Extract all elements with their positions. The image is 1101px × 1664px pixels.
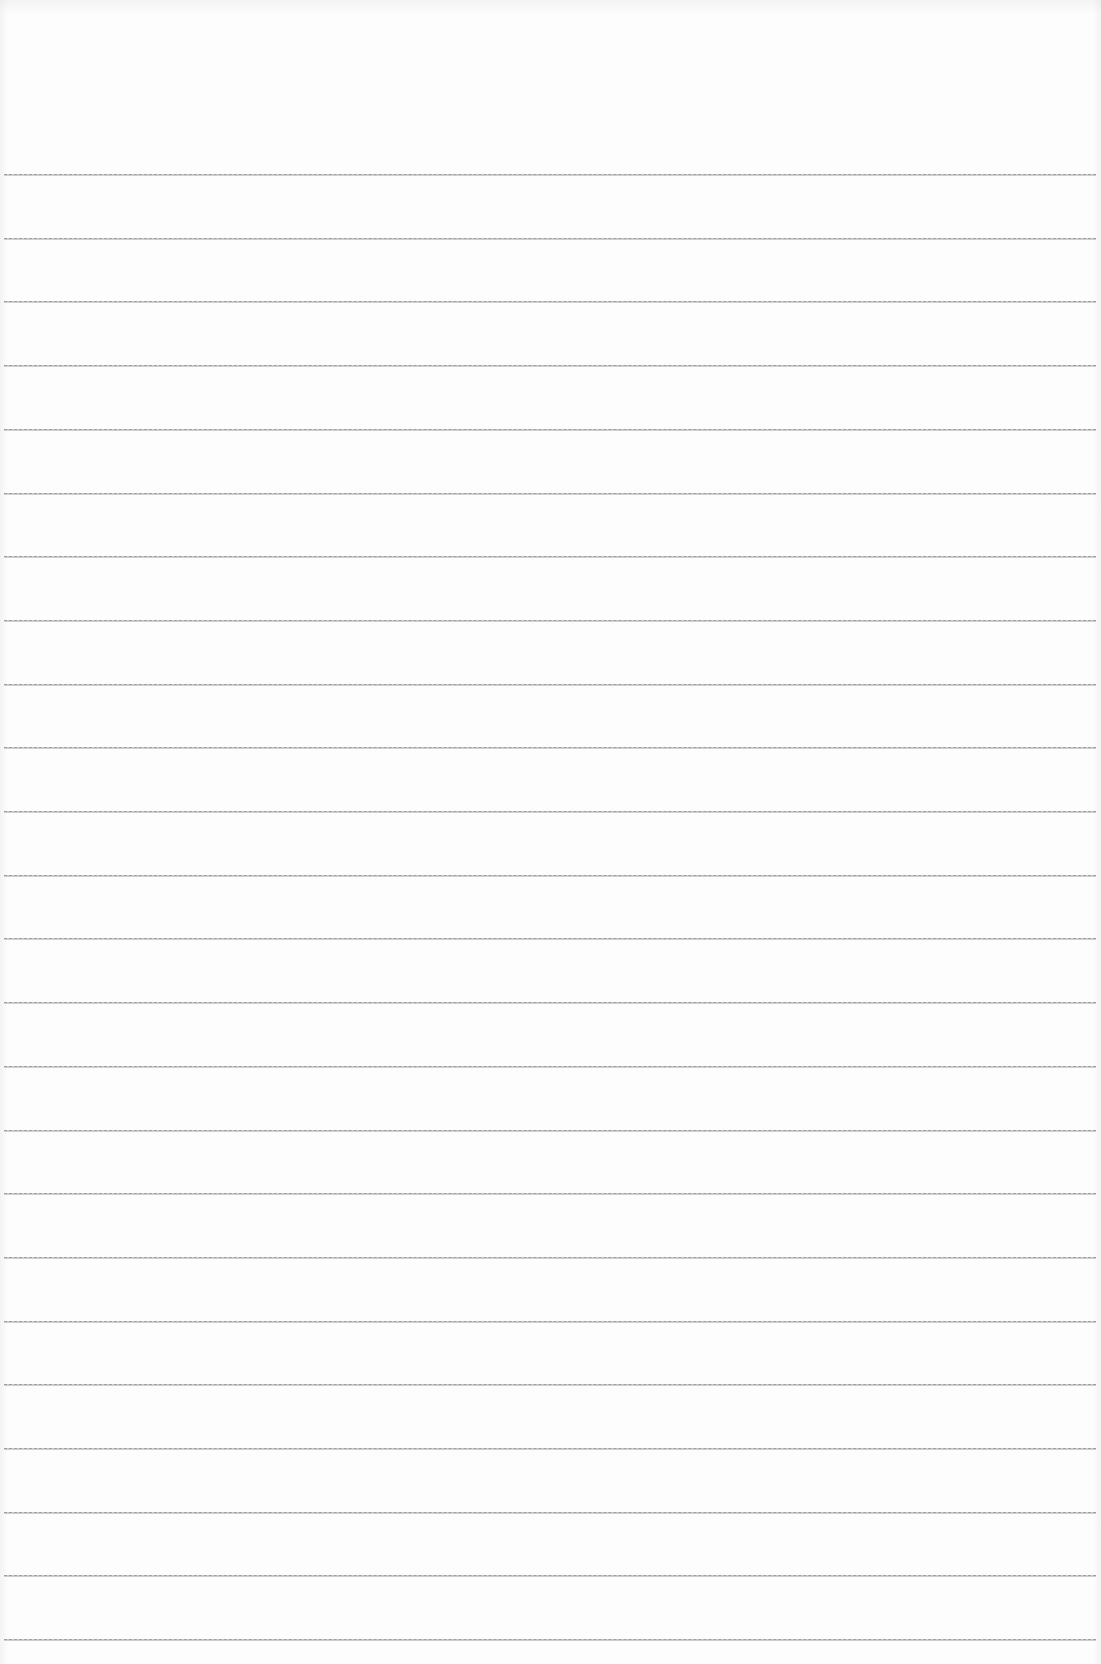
ruled-line <box>4 238 1096 240</box>
right-edge-shadow <box>1093 0 1101 1664</box>
ruled-line <box>4 620 1096 622</box>
ruled-line <box>4 1066 1096 1068</box>
ruled-line <box>4 1130 1096 1132</box>
ruled-line <box>4 1512 1096 1514</box>
ruled-line <box>4 684 1096 686</box>
ruled-line <box>4 301 1096 303</box>
ruled-line <box>4 1575 1096 1577</box>
ruled-line <box>4 1321 1096 1323</box>
left-edge-shadow <box>0 0 8 1664</box>
ruled-line <box>4 556 1096 558</box>
ruled-line <box>4 811 1096 813</box>
ruled-line <box>4 174 1096 176</box>
ruled-line <box>4 365 1096 367</box>
ruled-line <box>4 1639 1096 1641</box>
ruled-line <box>4 1257 1096 1259</box>
ruled-line <box>4 1002 1096 1004</box>
ruled-line <box>4 1193 1096 1195</box>
ruled-line <box>4 1384 1096 1386</box>
top-bleed-through <box>0 0 1101 14</box>
ruled-line <box>4 938 1096 940</box>
ruled-line <box>4 429 1096 431</box>
ruled-line <box>4 493 1096 495</box>
lined-paper-sheet <box>0 0 1101 1664</box>
ruled-line <box>4 747 1096 749</box>
ruled-line <box>4 1448 1096 1450</box>
ruled-line <box>4 875 1096 877</box>
